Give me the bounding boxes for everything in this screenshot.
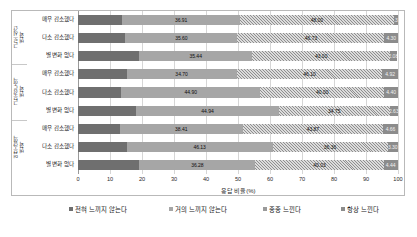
bar-value-label: 4.30 bbox=[386, 35, 396, 41]
group-label-0: 근로시간 변화 bbox=[12, 11, 27, 64]
category-label: 매우 감소했다 bbox=[26, 17, 74, 23]
bar-segment[interactable]: 34.75 bbox=[279, 106, 390, 116]
bar-value-label: 4.92 bbox=[385, 71, 395, 77]
bar-value-label: 46.13 bbox=[193, 144, 206, 150]
bar-segment[interactable]: 4.30 bbox=[384, 33, 398, 43]
bar-segment[interactable]: 36.28 bbox=[139, 160, 255, 170]
bar-value-label: 38.41 bbox=[175, 126, 188, 132]
legend-item[interactable]: 종종 느낀다 bbox=[263, 205, 301, 214]
legend-label: 전혀 느끼지 않는다 bbox=[75, 205, 127, 214]
bar-segment[interactable]: 40.00 bbox=[260, 87, 384, 97]
bar-segment[interactable] bbox=[78, 33, 125, 43]
bar-value-label: 35.60 bbox=[175, 35, 188, 41]
bar-segment[interactable]: 35.60 bbox=[125, 33, 237, 43]
bar-segment[interactable]: 4.40 bbox=[384, 87, 398, 97]
bar-value-label: 36.28 bbox=[191, 162, 204, 168]
bar-segment[interactable]: 2.63 bbox=[390, 106, 398, 116]
category-label: 별 변화 없다 bbox=[26, 108, 74, 114]
category-label: 별 변화 없다 bbox=[26, 53, 74, 59]
bar-value-label: 43.00 bbox=[315, 53, 328, 59]
bar-value-label: 3.30 bbox=[388, 144, 398, 150]
gridline-100 bbox=[398, 11, 399, 174]
x-tick-label: 60 bbox=[267, 176, 273, 182]
bar-value-label: 1.37 bbox=[394, 17, 398, 23]
bar-segment[interactable]: 46.73 bbox=[237, 33, 384, 43]
bar-segment[interactable]: 46.10 bbox=[237, 69, 383, 79]
bar-segment[interactable] bbox=[78, 124, 120, 134]
bar-row[interactable]: 46.1336.363.30 bbox=[78, 142, 398, 152]
category-label: 매우 감소했다 bbox=[26, 71, 74, 77]
bar-value-label: 2.08 bbox=[390, 53, 397, 59]
bar-row[interactable]: 36.9148.001.37 bbox=[78, 15, 398, 25]
x-tick-label: 80 bbox=[331, 176, 337, 182]
bar-value-label: 44.90 bbox=[184, 89, 197, 95]
bar-segment[interactable]: 38.41 bbox=[120, 124, 243, 134]
bar-value-label: 40.03 bbox=[313, 162, 326, 168]
bar-value-label: 46.10 bbox=[303, 71, 316, 77]
legend-label: 항상 느낀다 bbox=[347, 205, 379, 214]
x-tick-label: 90 bbox=[363, 176, 369, 182]
bar-segment[interactable]: 4.44 bbox=[384, 160, 398, 170]
x-axis: 0102030405060708090100 bbox=[78, 176, 398, 186]
legend-label: 종종 느낀다 bbox=[269, 205, 301, 214]
bar-segment[interactable]: 43.87 bbox=[243, 124, 383, 134]
x-tick-label: 10 bbox=[107, 176, 113, 182]
bar-segment[interactable]: 44.90 bbox=[121, 87, 260, 97]
bar-segment[interactable]: 1.37 bbox=[394, 15, 398, 25]
bar-segment[interactable]: 36.36 bbox=[273, 142, 388, 152]
bar-value-label: 35.44 bbox=[189, 53, 202, 59]
group-label-1-text: 근무강도의 변화 bbox=[13, 79, 25, 105]
bar-row[interactable]: 35.4443.002.08 bbox=[78, 51, 398, 61]
plot-area: 36.9148.001.3735.6046.734.3035.4443.002.… bbox=[78, 11, 398, 174]
bar-segment[interactable] bbox=[78, 142, 127, 152]
legend-item[interactable]: 전혀 느끼지 않는다 bbox=[69, 205, 127, 214]
bar-segment[interactable] bbox=[78, 69, 127, 79]
legend-item[interactable]: 거의 느끼지 않는다 bbox=[169, 205, 227, 214]
category-label: 다소 감소했다 bbox=[26, 144, 74, 150]
bar-value-label: 40.00 bbox=[316, 89, 329, 95]
bar-segment[interactable]: 3.30 bbox=[388, 142, 398, 152]
bar-row[interactable]: 44.9040.004.40 bbox=[78, 87, 398, 97]
bar-segment[interactable]: 44.94 bbox=[136, 106, 279, 116]
bar-segment[interactable]: 34.70 bbox=[127, 69, 237, 79]
bar-row[interactable]: 34.7046.104.92 bbox=[78, 69, 398, 79]
bar-segment[interactable]: 46.13 bbox=[127, 142, 273, 152]
bar-value-label: 4.40 bbox=[386, 89, 396, 95]
bar-row[interactable]: 36.2840.034.44 bbox=[78, 160, 398, 170]
bar-segment[interactable]: 4.66 bbox=[383, 124, 398, 134]
bar-value-label: 46.73 bbox=[305, 35, 318, 41]
bar-value-label: 36.36 bbox=[324, 144, 337, 150]
chart-legend: 전혀 느끼지 않는다거의 느끼지 않는다종종 느낀다항상 느낀다 bbox=[11, 202, 405, 216]
legend-swatch-icon bbox=[169, 207, 173, 211]
group-divider bbox=[12, 120, 27, 121]
bar-value-label: 34.70 bbox=[175, 71, 188, 77]
category-axis: 매우 감소했다다소 감소했다별 변화 없다매우 감소했다다소 감소했다별 변화 … bbox=[27, 11, 77, 174]
group-label-2-text: 업무량의 변화 bbox=[13, 137, 25, 158]
legend-item[interactable]: 항상 느낀다 bbox=[341, 205, 379, 214]
bar-segment[interactable] bbox=[78, 106, 136, 116]
category-label: 다소 감소했다 bbox=[26, 90, 74, 96]
legend-swatch-icon bbox=[341, 207, 345, 211]
bar-row[interactable]: 44.9434.752.63 bbox=[78, 106, 398, 116]
bar-segment[interactable]: 40.03 bbox=[255, 160, 383, 170]
group-label-1: 근무강도의 변화 bbox=[12, 64, 27, 120]
bar-value-label: 2.63 bbox=[390, 108, 398, 114]
bar-value-label: 4.44 bbox=[386, 162, 396, 168]
bar-segment[interactable]: 43.00 bbox=[252, 51, 390, 61]
bar-value-label: 34.75 bbox=[328, 108, 341, 114]
x-tick-label: 30 bbox=[171, 176, 177, 182]
bar-segment[interactable]: 48.00 bbox=[240, 15, 393, 25]
legend-swatch-icon bbox=[69, 207, 73, 211]
group-label-0-text: 근로시간 변화 bbox=[13, 27, 25, 48]
bar-segment[interactable] bbox=[78, 160, 139, 170]
bar-row[interactable]: 38.4143.874.66 bbox=[78, 124, 398, 134]
bar-segment[interactable] bbox=[78, 87, 121, 97]
bar-segment[interactable]: 36.91 bbox=[122, 15, 240, 25]
bar-segment[interactable] bbox=[78, 51, 139, 61]
bar-segment[interactable]: 2.08 bbox=[390, 51, 397, 61]
x-axis-title: 응답 비율(%) bbox=[78, 186, 398, 195]
bar-segment[interactable]: 4.92 bbox=[382, 69, 398, 79]
bar-row[interactable]: 35.6046.734.30 bbox=[78, 33, 398, 43]
bar-segment[interactable]: 35.44 bbox=[139, 51, 252, 61]
bar-segment[interactable] bbox=[78, 15, 122, 25]
